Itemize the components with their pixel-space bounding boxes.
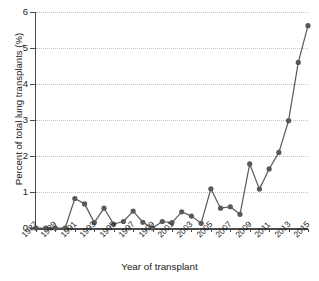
data-point-marker xyxy=(286,118,291,123)
data-point-marker xyxy=(189,214,194,219)
data-point-marker xyxy=(131,208,136,213)
data-series-line xyxy=(36,12,308,228)
x-tick-mark xyxy=(55,229,56,232)
data-point-marker xyxy=(179,209,184,214)
data-point-marker xyxy=(247,161,252,166)
data-point-marker xyxy=(82,201,87,206)
y-tick-mark xyxy=(30,120,35,121)
data-point-marker xyxy=(72,196,77,201)
data-point-marker xyxy=(218,206,223,211)
lung-transplant-line-chart: 0123456 19871989199119931995199719992001… xyxy=(0,0,319,281)
data-point-marker xyxy=(101,206,106,211)
x-tick-mark xyxy=(230,229,231,232)
y-tick-mark xyxy=(30,192,35,193)
data-point-marker xyxy=(237,212,242,217)
y-axis-label: Percent of total lung transplants (%) xyxy=(14,19,24,199)
x-axis-label: Year of transplant xyxy=(0,262,319,272)
y-tick-mark xyxy=(30,48,35,49)
y-tick-label: 6 xyxy=(0,7,28,17)
x-tick-mark xyxy=(94,229,95,232)
data-point-marker xyxy=(276,150,281,155)
data-point-marker xyxy=(296,60,301,65)
y-tick-mark xyxy=(30,84,35,85)
data-point-marker xyxy=(305,23,310,28)
y-tick-mark xyxy=(30,156,35,157)
data-point-marker xyxy=(267,166,272,171)
data-point-marker xyxy=(208,186,213,191)
data-point-marker xyxy=(257,187,262,192)
x-tick-mark xyxy=(191,229,192,232)
y-tick-mark xyxy=(30,12,35,13)
data-point-marker xyxy=(228,204,233,209)
